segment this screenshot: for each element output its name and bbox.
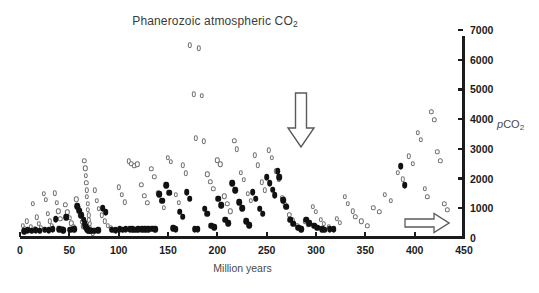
data-point <box>43 197 47 202</box>
data-point <box>193 136 197 141</box>
data-point <box>232 138 236 143</box>
data-point <box>145 200 149 205</box>
data-point <box>402 182 408 189</box>
x-axis-line <box>20 236 465 239</box>
data-point <box>83 173 87 178</box>
data-point <box>211 186 215 191</box>
data-point <box>116 185 120 190</box>
data-point <box>85 194 89 199</box>
data-point <box>149 166 153 171</box>
data-point <box>422 186 426 191</box>
x-axis-title: Million years <box>20 262 465 274</box>
data-point <box>246 222 252 229</box>
data-point <box>50 226 56 233</box>
data-point <box>52 191 56 196</box>
data-point <box>208 179 212 184</box>
data-point <box>225 220 231 227</box>
data-point <box>218 202 224 209</box>
data-point <box>365 223 369 228</box>
data-point <box>383 192 387 197</box>
data-point <box>415 130 419 135</box>
x-axis-tick-label: 450 <box>455 244 473 256</box>
data-point <box>45 211 49 216</box>
y-axis-tick-label: 7000 <box>470 24 493 36</box>
x-axis-tick <box>364 232 366 237</box>
data-point <box>84 188 88 193</box>
data-point <box>260 210 266 217</box>
data-point <box>139 182 143 187</box>
y-axis-title-subscript: 2 <box>520 123 524 132</box>
x-axis-tick-label: 50 <box>63 244 75 256</box>
data-point <box>266 148 270 153</box>
data-point <box>188 43 192 48</box>
data-point <box>35 214 39 219</box>
y-axis-tick-label: 6000 <box>470 54 493 66</box>
data-point <box>199 93 203 98</box>
figure-container: Phanerozoic atmospheric CO2 050100150200… <box>0 0 539 293</box>
data-point <box>438 158 442 163</box>
plot-area <box>20 30 464 238</box>
data-point <box>162 205 166 210</box>
data-point <box>71 226 77 233</box>
data-point <box>229 180 235 187</box>
data-point <box>156 191 162 198</box>
data-point <box>103 209 109 216</box>
data-point <box>84 180 88 185</box>
data-point <box>93 188 97 193</box>
data-point <box>260 179 264 184</box>
data-point <box>442 201 446 206</box>
data-point <box>272 192 278 199</box>
data-point <box>142 193 146 198</box>
y-axis-tick <box>458 88 463 90</box>
data-point <box>256 162 260 167</box>
data-point <box>298 226 304 233</box>
x-axis-tick-label: 200 <box>209 244 227 256</box>
data-point <box>61 227 67 234</box>
chart-title-text: Phanerozoic atmospheric CO <box>132 14 293 28</box>
data-point <box>184 171 188 176</box>
data-point <box>418 137 422 142</box>
data-point <box>180 213 186 220</box>
y-axis-tick-label: 2000 <box>470 173 493 185</box>
data-point <box>53 216 59 223</box>
data-point <box>242 177 246 182</box>
data-point <box>250 189 256 196</box>
x-axis-tick <box>216 232 218 237</box>
data-point <box>262 188 266 193</box>
data-point <box>407 154 411 159</box>
x-axis-tick-label: 250 <box>258 244 276 256</box>
y-axis-tick-label: 3000 <box>470 143 493 155</box>
data-point <box>64 214 70 221</box>
data-point <box>371 205 375 210</box>
x-axis-tick <box>118 232 120 237</box>
y-axis-tick <box>458 177 463 179</box>
data-point <box>187 195 193 202</box>
data-point <box>41 191 45 196</box>
right-arrow-annotation-icon <box>404 212 450 238</box>
data-point <box>396 170 400 175</box>
data-point <box>228 209 232 214</box>
y-axis-tick <box>458 59 463 61</box>
x-axis-tick-label: 0 <box>17 244 23 256</box>
data-point <box>269 155 273 160</box>
data-point <box>181 162 185 167</box>
data-point <box>173 226 179 233</box>
data-point <box>122 200 126 205</box>
data-point <box>225 201 229 206</box>
x-axis-tick <box>68 232 70 237</box>
y-axis-tick-label: 5000 <box>470 83 493 95</box>
data-point <box>353 214 357 219</box>
data-point <box>253 195 259 202</box>
data-point <box>232 187 238 194</box>
data-point <box>342 194 346 199</box>
data-point <box>425 194 429 199</box>
data-point <box>359 219 363 224</box>
y-axis-title-text: CO <box>503 118 520 130</box>
x-axis-tick <box>19 232 21 237</box>
data-point <box>86 207 90 212</box>
data-point <box>212 224 218 231</box>
y-axis-tick-label: 4000 <box>470 113 493 125</box>
data-point <box>184 189 190 196</box>
x-axis-tick <box>167 232 169 237</box>
data-point <box>63 202 67 207</box>
